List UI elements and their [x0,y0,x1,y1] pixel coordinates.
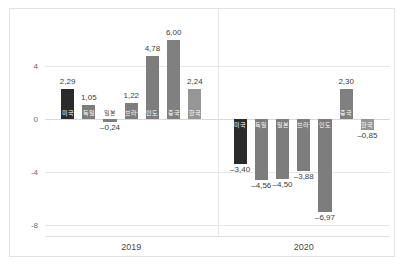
group-label-2020: 2020 [218,242,391,252]
group-divider [218,9,219,236]
y-tick-label: -8 [8,221,38,230]
bar-value-label: 1,05 [65,94,113,102]
bar[interactable]: 중국 [340,89,353,120]
bar[interactable]: 미국 [234,119,247,164]
bar-country-label: 인도 [146,110,159,116]
chart-frame: 40-4-8 미국2,29독일1,05–0,24일본브라질1,22인도4,78중… [9,8,395,257]
group-label-2019: 2019 [45,242,218,252]
y-tick-label: -4 [8,168,38,177]
bar[interactable] [103,119,116,122]
bar[interactable]: 독일 [255,119,268,180]
bar-country-label: 브라질 [125,110,138,116]
bar-country-label: 브라질 [297,122,310,128]
bar-value-label: 2,24 [171,78,219,86]
bar-country-label: 일본 [276,122,289,128]
y-tick-label: 4 [8,62,38,71]
y-tick-label: 0 [8,115,38,124]
bar-country-label: 중국 [340,110,353,116]
bar-value-label: –0,85 [343,132,391,140]
bar-value-label: –0,24 [86,124,134,132]
bar[interactable]: 일본 [276,119,289,179]
bar-country-label: 한국 [188,110,201,116]
bar-value-label: –6,97 [301,214,349,222]
bar-country-label: 한국 [361,122,374,128]
bar[interactable]: 인도 [146,56,159,119]
bar-value-label: –4,50 [259,181,307,189]
bar-country-label: 중국 [167,110,180,116]
bar-country-label: 미국 [61,110,74,116]
bar-country-label: 독일 [255,122,268,128]
bar[interactable]: 브라질 [297,119,310,170]
bar-value-label: 2,30 [322,78,370,86]
bar-value-label: 2,29 [44,78,92,86]
bar-country-label: 인도 [318,122,331,128]
bar[interactable]: 인도 [318,119,331,212]
bar-country-label: 미국 [234,122,247,128]
plot-area: 40-4-8 미국2,29독일1,05–0,24일본브라질1,22인도4,78중… [45,21,390,236]
axis-baseline [45,236,390,237]
bar[interactable]: 한국 [361,119,374,130]
bar[interactable]: 브라질 [125,103,138,119]
bar[interactable]: 한국 [188,89,201,119]
bar-value-label: 6,00 [150,29,198,37]
